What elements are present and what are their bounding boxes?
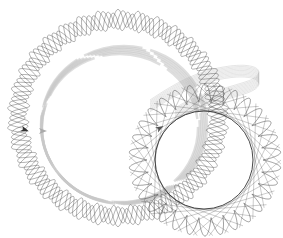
turtle-drawing-canvas — [0, 0, 283, 238]
